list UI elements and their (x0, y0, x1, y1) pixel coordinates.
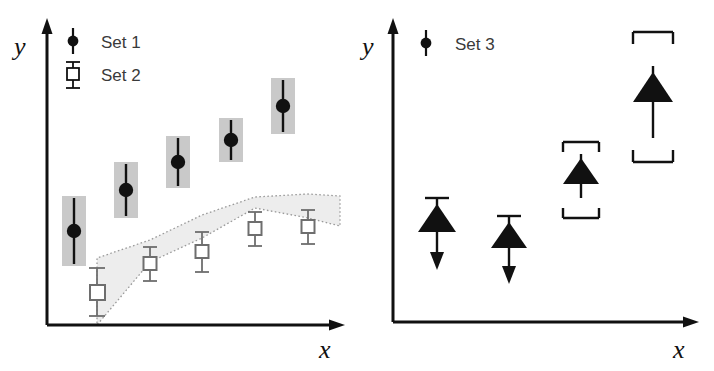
legend-marker-set2 (66, 62, 80, 88)
set3-marker-2 (491, 222, 527, 248)
left-legend: Set 1 Set 2 (66, 28, 141, 88)
set1-markers (67, 99, 290, 238)
right-legend: Set 3 (421, 30, 495, 56)
legend-label-set3: Set 3 (455, 35, 495, 54)
set3-marker-4 (633, 72, 673, 102)
set3-marker-3 (563, 158, 599, 184)
legend-marker-set1 (68, 28, 79, 54)
legend-marker-set3 (421, 30, 432, 56)
set3-marker-1 (418, 204, 456, 232)
left-x-axis-label: x (318, 335, 331, 364)
panel-right: y x Set 3 (357, 0, 714, 371)
legend-label-set2: Set 2 (101, 66, 141, 85)
scientific-figure: y x Set 1 Set 2 (0, 0, 714, 371)
left-axes (42, 18, 346, 331)
right-x-axis-label: x (672, 335, 685, 364)
legend-label-set1: Set 1 (101, 33, 141, 52)
right-axes (388, 18, 700, 328)
right-y-axis-label: y (359, 32, 374, 61)
left-plot-canvas: y x Set 1 Set 2 (0, 0, 360, 371)
left-y-axis-label: y (11, 32, 26, 61)
right-plot-canvas: y x Set 3 (357, 0, 714, 371)
panel-left: y x Set 1 Set 2 (0, 0, 360, 371)
